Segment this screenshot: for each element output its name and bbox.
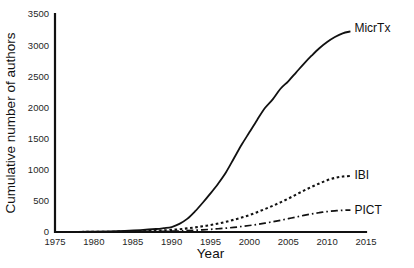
x-tick-label: 1980 (83, 236, 104, 247)
line-chart: 0500100015002000250030003500 19751980198… (0, 0, 414, 268)
series-label-ibi: IBI (354, 168, 369, 182)
x-tick-label: 2010 (317, 236, 338, 247)
y-axis-title: Cumulative number of authors (3, 32, 18, 213)
series-label-pict: PICT (354, 203, 382, 217)
y-tick-label: 2000 (28, 102, 49, 113)
axis-lines (55, 14, 366, 232)
series-line-pict (55, 210, 350, 232)
y-tick-label: 1000 (28, 164, 49, 175)
x-tick-label: 1990 (161, 236, 182, 247)
x-tick-label: 2000 (239, 236, 260, 247)
x-tick-label: 1975 (44, 236, 65, 247)
x-tick-label: 2015 (355, 236, 376, 247)
series-line-micrtx (55, 31, 350, 232)
x-tick-label: 1985 (122, 236, 143, 247)
series-label-micrtx: MicrTx (354, 21, 390, 35)
series-end-labels: MicrTxIBIPICT (354, 21, 390, 216)
x-tick-label: 2005 (278, 236, 299, 247)
y-tick-label: 1500 (28, 133, 49, 144)
y-tick-label: 3000 (28, 40, 49, 51)
y-tick-label: 500 (33, 195, 49, 206)
x-axis-title: Year (197, 246, 225, 261)
data-series-group (55, 31, 350, 232)
chart-container: 0500100015002000250030003500 19751980198… (0, 0, 414, 268)
y-tick-label: 3500 (28, 8, 49, 19)
y-tick-label: 2500 (28, 71, 49, 82)
y-axis-tick-labels: 0500100015002000250030003500 (28, 8, 49, 237)
